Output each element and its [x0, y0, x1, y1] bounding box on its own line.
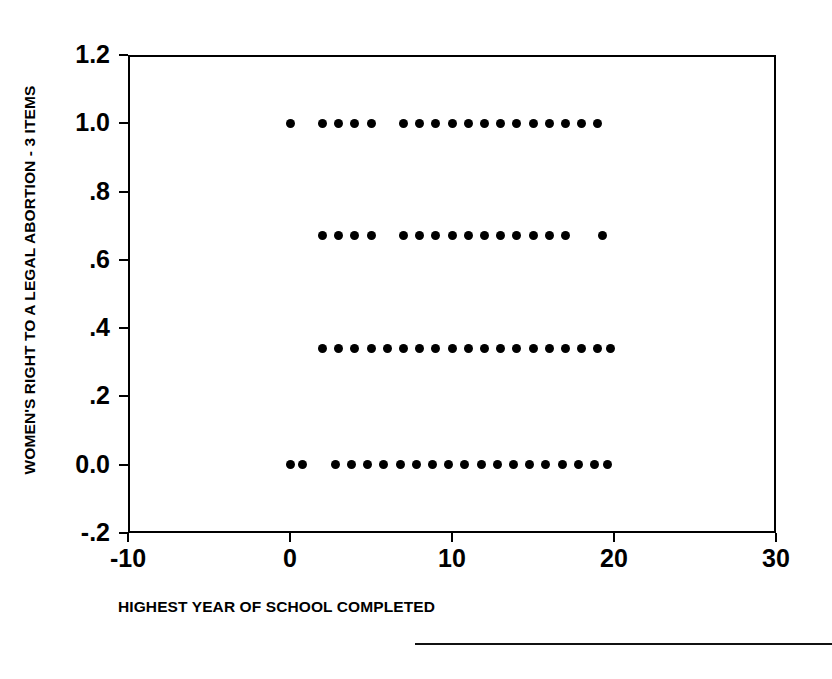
- data-point: [415, 119, 424, 128]
- y-axis-tick-label: .4: [46, 315, 110, 340]
- data-point: [334, 231, 343, 240]
- x-axis-title: HIGHEST YEAR OF SCHOOL COMPLETED: [118, 598, 435, 616]
- data-point: [448, 344, 457, 353]
- y-axis-tick-label: .2: [46, 383, 110, 408]
- y-axis-tick-mark: [119, 464, 128, 466]
- data-point: [412, 460, 421, 469]
- data-point: [415, 231, 424, 240]
- data-point: [367, 231, 376, 240]
- data-point: [545, 344, 554, 353]
- data-point: [448, 119, 457, 128]
- data-point: [561, 344, 570, 353]
- data-point: [347, 460, 356, 469]
- data-point: [558, 460, 567, 469]
- data-point: [606, 344, 615, 353]
- y-axis-tick-mark: [119, 259, 128, 261]
- data-point: [496, 231, 505, 240]
- data-point: [561, 231, 570, 240]
- data-point: [529, 344, 538, 353]
- data-point: [428, 460, 437, 469]
- data-point: [350, 119, 359, 128]
- y-axis-tick-mark: [119, 327, 128, 329]
- y-axis-title: WOMEN'S RIGHT TO A LEGAL ABORTION - 3 IT…: [21, 86, 39, 475]
- data-point: [334, 344, 343, 353]
- y-axis-tick-label: .6: [46, 247, 110, 272]
- data-point: [399, 231, 408, 240]
- data-point: [383, 344, 392, 353]
- data-point: [444, 460, 453, 469]
- data-point: [379, 460, 388, 469]
- data-point: [363, 460, 372, 469]
- data-point: [431, 344, 440, 353]
- data-point: [525, 460, 534, 469]
- y-axis-tick-labels: 1.21.0.8.6.4.20.0-.2: [46, 0, 110, 679]
- x-axis-tick-label: 30: [736, 546, 816, 571]
- data-point: [561, 119, 570, 128]
- data-point: [480, 231, 489, 240]
- x-axis-tick-mark: [451, 533, 453, 542]
- data-point: [545, 231, 554, 240]
- data-point: [318, 119, 327, 128]
- data-point: [464, 231, 473, 240]
- x-axis-tick-mark: [613, 533, 615, 542]
- data-point: [318, 344, 327, 353]
- x-axis-tick-mark: [127, 533, 129, 542]
- y-axis-tick-label: 1.2: [46, 42, 110, 67]
- data-point: [464, 119, 473, 128]
- data-point: [493, 460, 502, 469]
- data-point: [593, 344, 602, 353]
- data-point: [577, 344, 586, 353]
- data-point: [512, 119, 521, 128]
- data-point: [480, 119, 489, 128]
- data-point: [574, 460, 583, 469]
- data-point: [399, 344, 408, 353]
- y-axis-tick-label: -.2: [46, 520, 110, 545]
- data-point: [593, 119, 602, 128]
- data-point: [399, 119, 408, 128]
- y-axis-tick-label: 1.0: [46, 110, 110, 135]
- x-axis-tick-label: 10: [412, 546, 492, 571]
- data-point: [415, 344, 424, 353]
- data-point: [477, 460, 486, 469]
- data-point: [334, 119, 343, 128]
- data-point: [367, 344, 376, 353]
- y-axis-tick-label: .8: [46, 179, 110, 204]
- x-axis-tick-mark: [289, 533, 291, 542]
- data-point: [318, 231, 327, 240]
- data-point: [529, 119, 538, 128]
- data-point: [464, 344, 473, 353]
- data-point: [529, 231, 538, 240]
- data-point: [367, 119, 376, 128]
- data-point: [350, 231, 359, 240]
- data-point: [598, 231, 607, 240]
- x-axis-tick-label: 20: [574, 546, 654, 571]
- data-point: [431, 231, 440, 240]
- y-axis-tick-mark: [119, 122, 128, 124]
- chart-page: WOMEN'S RIGHT TO A LEGAL ABORTION - 3 IT…: [0, 0, 832, 679]
- data-point: [460, 460, 469, 469]
- data-point: [331, 460, 340, 469]
- data-point: [496, 119, 505, 128]
- x-axis-tick-mark: [775, 533, 777, 542]
- x-axis-tick-label: 0: [250, 546, 330, 571]
- y-axis-tick-label: 0.0: [46, 452, 110, 477]
- data-point: [512, 231, 521, 240]
- data-point: [545, 119, 554, 128]
- data-point: [431, 119, 440, 128]
- data-point: [590, 460, 599, 469]
- y-axis-tick-mark: [119, 191, 128, 193]
- data-point: [480, 344, 489, 353]
- data-point: [448, 231, 457, 240]
- data-point: [603, 460, 612, 469]
- data-point: [541, 460, 550, 469]
- y-axis-tick-mark: [119, 395, 128, 397]
- data-point: [396, 460, 405, 469]
- plot-data-area: [128, 55, 776, 533]
- x-axis-tick-label: -10: [88, 546, 168, 571]
- data-point: [577, 119, 586, 128]
- data-point: [496, 344, 505, 353]
- data-point: [286, 119, 295, 128]
- data-point: [298, 460, 307, 469]
- data-point: [350, 344, 359, 353]
- data-point: [286, 460, 295, 469]
